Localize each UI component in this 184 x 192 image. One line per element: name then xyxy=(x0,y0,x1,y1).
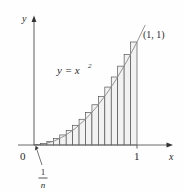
origin-label: 0 xyxy=(20,150,26,162)
riemann-rectangle xyxy=(124,54,130,145)
figure-canvas: y x 0 1 y = x 2 (1, 1) 1 n xyxy=(0,0,184,192)
x-tick-label-one: 1 xyxy=(134,150,140,162)
riemann-rectangle xyxy=(111,77,117,145)
fraction-numerator: 1 xyxy=(41,167,46,177)
x-axis-label: x xyxy=(168,151,174,162)
riemann-sum-figure: y x 0 1 y = x 2 (1, 1) 1 n xyxy=(0,0,184,192)
riemann-rectangle xyxy=(86,112,92,145)
point-label-one-one: (1, 1) xyxy=(143,29,165,41)
riemann-rectangle xyxy=(79,119,85,145)
riemann-rectangle xyxy=(131,42,137,145)
curve-equation-base: y = x xyxy=(56,64,80,76)
fraction-denominator: n xyxy=(41,180,46,190)
riemann-rectangle xyxy=(118,66,124,145)
y-axis-label: y xyxy=(21,13,27,24)
curve-equation-exponent: 2 xyxy=(88,62,92,70)
riemann-rectangle xyxy=(105,87,111,145)
